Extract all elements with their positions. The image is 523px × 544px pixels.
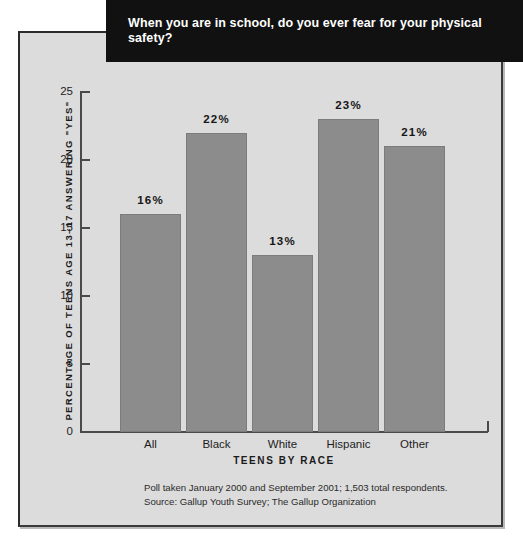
chart-panel [18, 31, 503, 527]
question-banner-text: When you are in school, do you ever fear… [128, 0, 513, 62]
question-banner: When you are in school, do you ever fear… [106, 0, 523, 62]
